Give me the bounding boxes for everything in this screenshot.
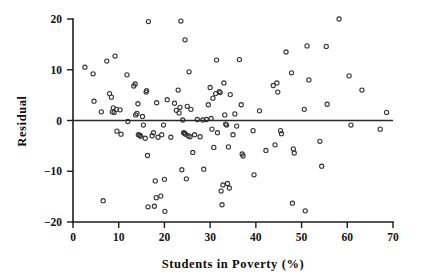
data-point (347, 74, 351, 78)
data-point (305, 44, 309, 48)
data-point (307, 78, 311, 82)
data-point (141, 123, 145, 127)
data-point (161, 123, 165, 127)
data-point (179, 19, 183, 23)
data-point (275, 81, 279, 85)
data-point (101, 199, 105, 203)
x-axis-ticks (73, 222, 393, 228)
y-tick-label: 20 (51, 13, 63, 25)
data-point (99, 110, 103, 114)
data-point (125, 73, 129, 77)
y-tick-label: 0 (56, 115, 62, 127)
data-point (140, 114, 144, 118)
y-axis-tick-labels: −20−1001020 (44, 13, 62, 228)
y-tick-label: 10 (51, 64, 63, 76)
data-point (233, 112, 237, 116)
data-point (226, 145, 230, 149)
data-point (215, 131, 219, 135)
data-point (180, 168, 184, 172)
data-point (284, 50, 288, 54)
data-point (292, 151, 296, 155)
data-point (228, 93, 232, 97)
data-point (172, 101, 176, 105)
data-point (159, 194, 163, 198)
data-point (385, 110, 389, 114)
data-point (176, 88, 180, 92)
data-point (113, 54, 117, 58)
data-point (184, 177, 188, 181)
data-point (303, 209, 307, 213)
residual-scatter-plot: −20−1001020 010203040506070 Students in … (0, 0, 423, 280)
data-point (257, 109, 261, 113)
x-tick-label: 20 (159, 231, 171, 243)
data-point (227, 186, 231, 190)
data-point (349, 123, 353, 127)
data-point (109, 95, 113, 99)
data-point (163, 209, 167, 213)
data-point (198, 135, 202, 139)
data-point (225, 181, 229, 185)
data-point (324, 44, 328, 48)
y-axis-title: Residual (15, 95, 29, 146)
data-points-layer (83, 17, 389, 214)
data-point (251, 129, 255, 133)
data-point (290, 201, 294, 205)
data-point (219, 189, 223, 193)
x-tick-label: 60 (342, 231, 354, 243)
y-axis-ticks (67, 19, 73, 222)
data-point (187, 70, 191, 74)
data-point (212, 145, 216, 149)
data-point (237, 58, 241, 62)
data-point (318, 139, 322, 143)
data-point (177, 111, 181, 115)
x-tick-label: 40 (250, 231, 262, 243)
data-point (325, 102, 329, 106)
data-point (302, 107, 306, 111)
data-point (153, 179, 157, 183)
data-point (337, 17, 341, 21)
data-point (91, 72, 95, 76)
data-point (210, 127, 214, 131)
data-point (191, 150, 195, 154)
scatter-plot-figure: −20−1001020 010203040506070 Students in … (0, 0, 423, 280)
x-tick-label: 50 (296, 231, 308, 243)
x-tick-label: 70 (387, 231, 399, 243)
data-point (289, 71, 293, 75)
data-point (115, 129, 119, 133)
data-point (152, 204, 156, 208)
data-point (146, 19, 150, 23)
data-point (160, 133, 164, 137)
data-point (154, 196, 158, 200)
data-point (105, 59, 109, 63)
data-point (378, 127, 382, 131)
x-tick-label: 30 (204, 231, 216, 243)
data-point (206, 103, 210, 107)
data-point (211, 96, 215, 100)
data-point (202, 167, 206, 171)
data-point (83, 65, 87, 69)
data-point (360, 88, 364, 92)
data-point (185, 104, 189, 108)
x-tick-label: 0 (70, 231, 76, 243)
data-point (239, 103, 243, 107)
data-point (193, 133, 197, 137)
data-point (155, 101, 159, 105)
data-point (214, 58, 218, 62)
data-point (276, 90, 280, 94)
y-tick-label: −10 (44, 165, 62, 177)
data-point (162, 177, 166, 181)
x-tick-label: 10 (113, 231, 125, 243)
data-point (235, 124, 239, 128)
data-point (169, 135, 173, 139)
data-point (136, 102, 140, 106)
data-point (146, 205, 150, 209)
x-axis-tick-labels: 010203040506070 (70, 231, 399, 243)
y-tick-label: −20 (44, 216, 62, 228)
data-point (273, 143, 277, 147)
data-point (223, 113, 227, 117)
data-point (220, 203, 224, 207)
data-point (178, 105, 182, 109)
data-point (145, 153, 149, 157)
data-point (222, 81, 226, 85)
data-point (143, 136, 147, 140)
